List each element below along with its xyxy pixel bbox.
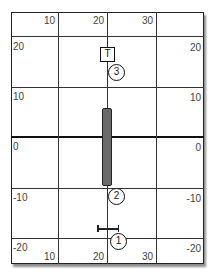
- grid-line-x10: [58, 12, 59, 264]
- error-bar-icon: [97, 228, 119, 230]
- right-y-label-0: 0: [195, 143, 201, 153]
- left-y-label-neg10: -10: [13, 193, 27, 203]
- right-y-label-20: 20: [190, 43, 201, 53]
- right-y-label-10: 10: [190, 93, 201, 103]
- left-y-label-0: 0: [13, 142, 19, 152]
- top-x-label-20: 20: [93, 16, 104, 26]
- point-marker-3-icon: 3: [108, 64, 125, 81]
- top-x-label-30: 30: [142, 16, 153, 26]
- left-y-label-10: 10: [13, 92, 24, 102]
- point-marker-1-icon: 1: [110, 233, 127, 250]
- bottom-x-label-30: 30: [142, 252, 153, 262]
- point-marker-2-icon: 2: [108, 188, 125, 205]
- target-marker-icon: T: [100, 47, 115, 62]
- left-y-label-20: 20: [13, 42, 24, 52]
- top-x-label-10: 10: [44, 16, 55, 26]
- bottom-x-label-20: 20: [93, 252, 104, 262]
- vertical-bar: [102, 108, 112, 186]
- left-y-label-neg20: -20: [13, 243, 27, 253]
- right-y-label-neg10: -10: [187, 194, 201, 204]
- right-y-label-neg20: -20: [187, 244, 201, 254]
- grid-line-x30: [156, 12, 157, 264]
- bottom-x-label-10: 10: [44, 252, 55, 262]
